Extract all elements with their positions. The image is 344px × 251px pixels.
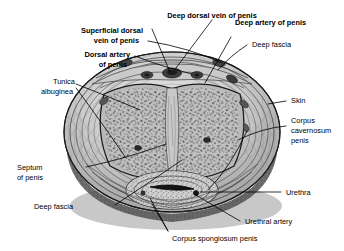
label-deep-artery: Deep artery of penis <box>235 18 306 27</box>
label-corpus-cavernosum-line3: penis <box>291 136 309 145</box>
label-superficial-dorsal-vein-line1: Superficial dorsal <box>81 26 143 35</box>
label-urethra: Urethra <box>286 188 312 197</box>
label-deep-fascia-top: Deep fascia <box>252 40 292 49</box>
label-dorsal-artery-line2: of penis <box>99 60 127 69</box>
label-corpus-cavernosum-line1: Corpus <box>291 116 315 125</box>
deep-artery-right <box>204 138 211 143</box>
label-septum-line1: Septum <box>17 163 42 172</box>
label-urethral-artery: Urethral artery <box>245 217 293 226</box>
label-corpus-cavernosum-line2: cavernosum <box>291 126 331 135</box>
anatomy-diagram: Deep dorsal vein of penis Superficial do… <box>0 0 344 251</box>
label-dorsal-artery-line1: Dorsal artery <box>84 50 130 59</box>
septum-penis <box>165 88 178 176</box>
deep-artery-left <box>135 146 142 151</box>
cross-section-illustration <box>64 52 282 230</box>
label-tunica-albuginea-line1: Tunica <box>53 77 76 86</box>
label-skin: Skin <box>291 96 305 105</box>
figure-canvas: Deep dorsal vein of penis Superficial do… <box>0 0 344 251</box>
label-tunica-albuginea-line2: albuginea <box>41 87 74 96</box>
label-superficial-dorsal-vein-line2: vein of penis <box>94 36 139 45</box>
label-deep-fascia-bottom: Deep fascia <box>34 202 74 211</box>
label-septum-line2: of penis <box>17 173 43 182</box>
label-corpus-spongiosum: Corpus spongiosum penis <box>172 234 258 243</box>
